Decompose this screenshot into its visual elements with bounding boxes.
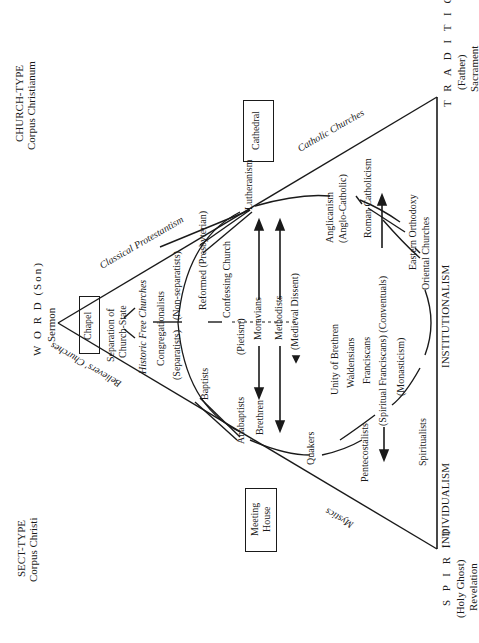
- label-baptists: Baptists: [200, 368, 210, 400]
- label-spiritual-conventuals: (Spiritual Franciscans) (Conventuals): [378, 276, 388, 426]
- circle-arc-top: [255, 195, 330, 206]
- label-anglicanism: Anglicanism: [325, 192, 335, 243]
- label-quakers: Quakers: [306, 432, 316, 465]
- word-vertex-means: Sermon: [46, 308, 57, 342]
- sect-type-title: SECT-TYPE: [16, 520, 27, 577]
- label-pietism: (Pietism): [236, 318, 246, 355]
- label-pentecostalists: Pentecostalists: [360, 423, 370, 482]
- label-reformed: Reformed (Presbyterian): [198, 211, 208, 310]
- label-anabaptists: Anabaptists: [236, 397, 246, 444]
- label-unity-of-brethren: Unity of Brethren: [330, 324, 340, 395]
- label-medieval-dissent: (Medieval Dissent): [290, 273, 300, 350]
- label-non-separatists: (Non-separatists): [172, 251, 182, 320]
- meeting-house-label-2: House: [262, 506, 272, 532]
- cathedral-label: Cathedral: [251, 111, 261, 150]
- label-roman-catholicism: Roman Catholicism: [363, 158, 373, 238]
- label-congregationalists: Congregationalists: [156, 291, 166, 366]
- label-eastern-orthodoxy: Eastern Orthodoxy: [408, 194, 418, 270]
- label-separation-2: Church-State: [118, 305, 128, 358]
- individualism-label: INDIVIDUALISM: [440, 463, 451, 548]
- meeting-house-label-1: Meeting: [250, 503, 260, 536]
- label-brethren: Brethren: [255, 400, 265, 435]
- tradition-vertex-person: (Father): [456, 55, 467, 90]
- chapel-label: Chapel: [83, 312, 93, 340]
- label-anglo-catholic: (Anglo-Catholic): [338, 174, 348, 243]
- tradition-vertex-title: T R A D I T I O N: [442, 0, 453, 107]
- label-monasticism: (Monasticism): [396, 338, 406, 396]
- label-spiritualists: Spiritualists: [418, 418, 428, 466]
- institutionalism-label: INSTITUTIONALISM: [440, 265, 451, 368]
- spirit-vertex-means: Revelation: [468, 563, 479, 611]
- spirit-vertex-person: (Holy Ghost): [455, 560, 466, 618]
- label-methodists: Methodists: [274, 296, 284, 340]
- label-lutheranism: Lutheranism: [244, 159, 254, 210]
- label-separation-1: Separation of: [106, 308, 116, 362]
- sect-type-subtitle: Corpus Christi: [28, 518, 39, 582]
- church-type-title: CHURCH-TYPE: [14, 65, 25, 142]
- label-historic-free-churches: Historic Free Churches: [138, 280, 148, 374]
- church-type-subtitle: Corpus Christianum: [26, 61, 37, 150]
- label-confessing-church: Confessing Church: [222, 241, 232, 318]
- circle-arc-right: [425, 290, 431, 355]
- tradition-vertex-means: Sacrament: [469, 46, 479, 92]
- label-oriental-churches: Oriental Churches: [421, 217, 431, 290]
- label-separatists: (Separatists): [172, 330, 182, 380]
- label-moravians: Moravians: [253, 297, 263, 340]
- word-vertex-title: W O R D (Son): [32, 261, 43, 356]
- label-franciscans: Franciscans: [362, 337, 372, 384]
- label-waldensians: Waldensians: [346, 338, 356, 388]
